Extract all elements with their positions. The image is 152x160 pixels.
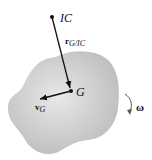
kinematics-diagram: IC G rG/IC vG ω xyxy=(0,0,152,160)
rigid-body xyxy=(8,51,119,154)
ic-point xyxy=(50,15,54,19)
r-vector-label: rG/IC xyxy=(65,36,86,48)
g-point xyxy=(69,89,73,93)
ic-label: IC xyxy=(59,11,73,25)
rotation-arrow-icon xyxy=(125,94,131,112)
omega-label: ω xyxy=(136,101,144,113)
rotation-arrowhead-icon xyxy=(127,109,132,115)
g-label: G xyxy=(76,85,85,99)
